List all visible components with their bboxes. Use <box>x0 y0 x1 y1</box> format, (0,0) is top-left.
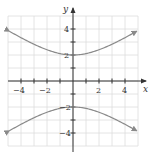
y-tick-label: −4 <box>59 129 71 138</box>
hyperbola-graph: y x −4 −2 2 4 4 2 −2 −4 <box>0 0 150 160</box>
x-tick-label: −4 <box>13 86 25 95</box>
y-tick-label: 4 <box>64 25 69 34</box>
x-axis-label: x <box>143 84 148 94</box>
y-tick-label: 2 <box>64 51 69 60</box>
x-tick-label: −2 <box>39 86 51 95</box>
x-tick-label: 2 <box>96 86 101 95</box>
y-axis-label: y <box>62 4 69 14</box>
x-tick-label: 4 <box>122 86 127 95</box>
y-tick-label: −2 <box>59 103 71 112</box>
